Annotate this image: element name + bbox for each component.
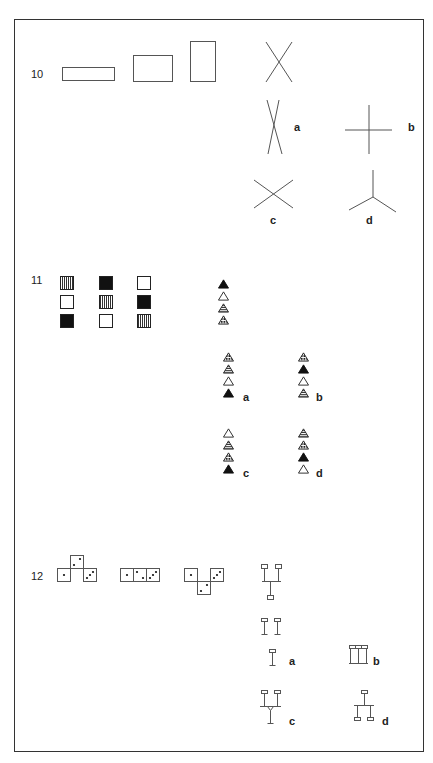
option-10-a-narrow-x[interactable] (267, 100, 282, 154)
problem-11-grid (61, 277, 151, 328)
medium-rectangle (134, 56, 173, 82)
grid-cell-striped (100, 296, 113, 309)
problem-11-triangle-stack (218, 280, 228, 324)
grid-cell-striped (138, 315, 151, 328)
tall-rectangle (191, 42, 216, 82)
wide-rectangle (63, 68, 115, 81)
x-cross (266, 42, 292, 82)
dice-group-1 (58, 556, 97, 582)
option-12-d-shape[interactable] (354, 691, 374, 721)
grid-cell-striped (61, 277, 74, 290)
problem-12-dice (58, 556, 224, 595)
dice-group-3 (185, 569, 224, 595)
option-12-c-shape[interactable] (260, 691, 281, 724)
option-10-b-plus[interactable] (345, 105, 392, 154)
option-11-b-stack[interactable] (298, 353, 308, 397)
grid-cell-white (138, 277, 151, 290)
grid-cell-black (61, 315, 74, 328)
problem-10-stimulus (63, 42, 293, 83)
option-12-a-shape[interactable] (262, 619, 281, 666)
option-11-c-stack[interactable] (223, 429, 233, 473)
option-11-a-stack[interactable] (223, 353, 233, 397)
problem-12-tree-stimulus (262, 565, 282, 600)
option-12-b-shape[interactable] (349, 646, 368, 664)
option-10-d-y-junction[interactable] (349, 170, 396, 212)
grid-cell-black (100, 277, 113, 290)
grid-cell-white (100, 315, 113, 328)
option-11-d-stack[interactable] (298, 429, 308, 473)
grid-cell-black (138, 296, 151, 309)
grid-cell-white (61, 296, 74, 309)
option-10-c-wide-x[interactable] (254, 180, 293, 208)
